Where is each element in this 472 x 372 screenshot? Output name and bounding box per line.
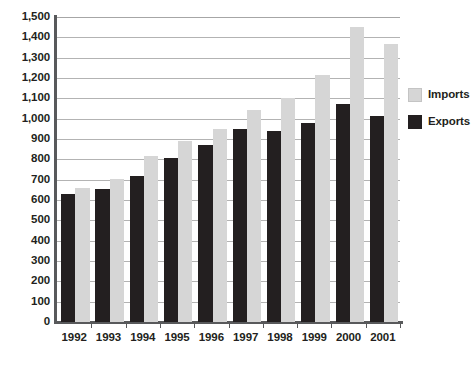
y-axis-tick-label: 1,100	[2, 93, 50, 105]
y-axis-tick-label: 1,500	[2, 11, 50, 23]
y-axis-tick-label: 500	[2, 215, 50, 227]
bar-imports-1998	[281, 98, 295, 322]
x-axis-tick-label-1994: 1994	[130, 331, 155, 345]
y-axis-tick-labels: 01002003004005006007008009001,0001,1001,…	[0, 17, 50, 322]
bar-imports-1992	[75, 188, 89, 322]
y-axis-tick-label: 600	[2, 194, 50, 206]
bar-imports-2001	[384, 44, 398, 322]
y-axis-tick-label: 900	[2, 133, 50, 145]
bar-imports-1999	[315, 75, 329, 322]
x-axis-tick-labels: 1992199319941995199619971998199920002001	[57, 331, 400, 351]
x-axis-tick-label-2000: 2000	[336, 331, 361, 345]
bar-imports-1996	[213, 129, 227, 322]
chart-legend: ImportsExports	[408, 88, 472, 142]
legend-swatch-imports	[408, 88, 422, 102]
bars-layer	[57, 17, 400, 322]
y-axis-tick-label: 1,300	[2, 52, 50, 64]
y-axis-tick-label: 100	[2, 296, 50, 308]
bar-chart: 01002003004005006007008009001,0001,1001,…	[0, 0, 472, 372]
bar-exports-1994	[130, 176, 144, 322]
y-axis-tick-label: 1,200	[2, 72, 50, 84]
x-axis-tick-label-1999: 1999	[302, 331, 327, 345]
x-axis-tick-label-2001: 2001	[370, 331, 395, 345]
legend-entry-imports: Imports	[408, 88, 472, 102]
legend-entry-exports: Exports	[408, 115, 472, 129]
bar-exports-1995	[164, 158, 178, 322]
legend-swatch-exports	[408, 115, 422, 129]
x-axis-tick-mark	[126, 322, 127, 328]
bar-exports-1993	[95, 189, 109, 322]
y-axis-tick-label: 300	[2, 255, 50, 267]
y-axis-tick-label: 400	[2, 235, 50, 247]
bar-exports-1998	[267, 131, 281, 322]
x-axis-tick-mark	[400, 322, 401, 328]
y-axis-tick-label: 700	[2, 174, 50, 186]
bar-exports-2000	[336, 104, 350, 322]
x-axis-tick-mark	[91, 322, 92, 328]
y-axis-tick-label: 200	[2, 276, 50, 288]
x-axis-tick-label-1997: 1997	[233, 331, 258, 345]
x-axis-tick-marks	[57, 322, 400, 329]
bar-imports-1994	[144, 156, 158, 322]
bar-imports-1993	[110, 179, 124, 322]
x-axis-tick-label-1993: 1993	[96, 331, 121, 345]
x-axis-tick-label-1998: 1998	[267, 331, 292, 345]
bar-exports-1999	[301, 123, 315, 322]
bar-imports-2000	[350, 27, 364, 322]
y-axis-tick-label: 1,000	[2, 113, 50, 125]
legend-label-exports: Exports	[428, 116, 470, 128]
x-axis-tick-label-1996: 1996	[199, 331, 224, 345]
bar-exports-1996	[198, 145, 212, 322]
x-axis-tick-mark	[194, 322, 195, 328]
legend-label-imports: Imports	[428, 89, 469, 101]
x-axis-tick-label-1995: 1995	[164, 331, 189, 345]
plot-area	[57, 17, 400, 322]
bar-exports-2001	[370, 116, 384, 322]
bar-exports-1992	[61, 194, 75, 322]
x-axis-tick-mark	[331, 322, 332, 328]
bar-imports-1997	[247, 110, 261, 322]
y-axis-tick-label: 800	[2, 154, 50, 166]
x-axis-tick-label-1992: 1992	[62, 331, 87, 345]
bar-exports-1997	[233, 129, 247, 322]
y-axis-tick-label: 0	[2, 316, 50, 328]
y-axis-tick-label: 1,400	[2, 32, 50, 44]
x-axis-tick-mark	[263, 322, 264, 328]
bar-imports-1995	[178, 141, 192, 322]
x-axis-tick-mark	[297, 322, 298, 328]
x-axis-tick-mark	[366, 322, 367, 328]
x-axis-tick-mark	[229, 322, 230, 328]
x-axis-tick-mark	[160, 322, 161, 328]
